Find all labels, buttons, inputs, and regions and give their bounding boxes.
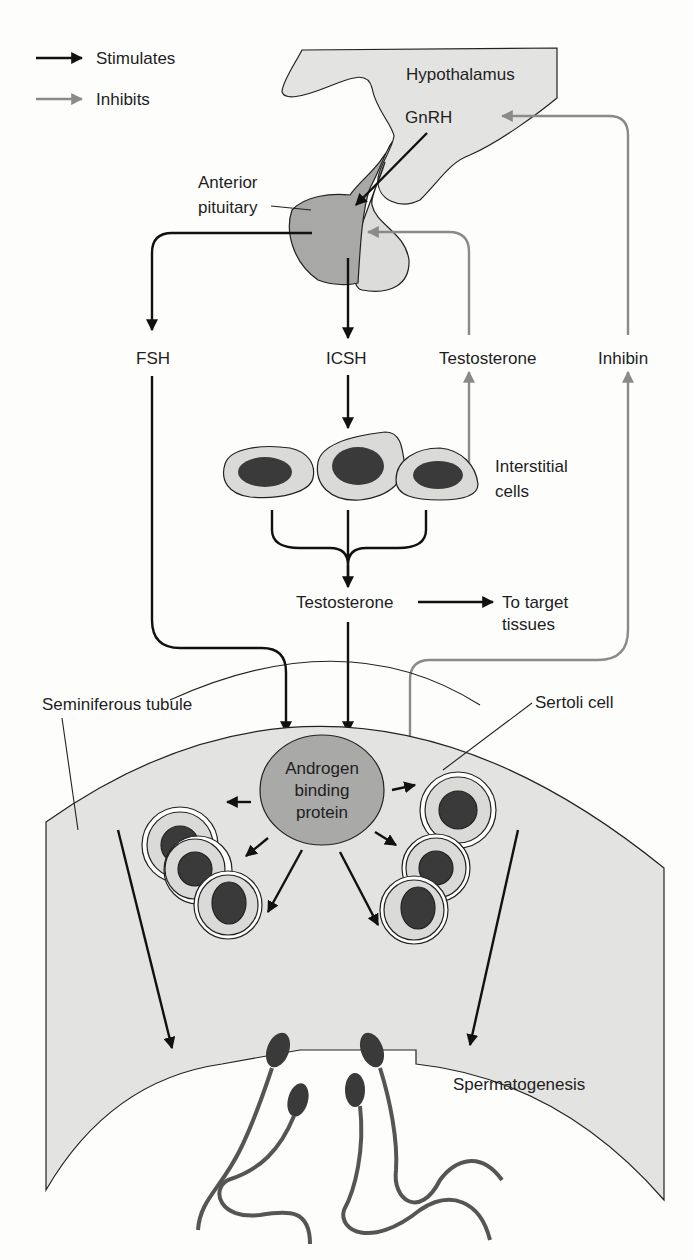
testosterone-feedback-label: Testosterone <box>439 349 536 368</box>
spermatogenesis-label: Spermatogenesis <box>453 1075 585 1094</box>
legend: Stimulates Inhibits <box>36 49 175 109</box>
anterior-pituitary-label-2: pituitary <box>198 198 258 217</box>
abp-label-3: protein <box>296 803 348 822</box>
hpg-axis-diagram: Stimulates Inhibits Hypothalamus GnRH An… <box>0 0 694 1260</box>
fsh-arrow <box>152 233 312 330</box>
fsh-label: FSH <box>136 349 170 368</box>
fsh-to-sertoli-arrow <box>152 376 286 732</box>
anterior-pituitary-label-1: Anterior <box>198 173 258 192</box>
inhibin-to-hypothalamus-arrow <box>502 116 628 335</box>
interstitial-cells-label-2: cells <box>495 482 529 501</box>
gnrh-label: GnRH <box>405 108 452 127</box>
interstitial-cells-label-1: Interstitial <box>495 457 568 476</box>
tubule-inner-membrane <box>170 661 480 705</box>
legend-inhibits: Inhibits <box>96 90 150 109</box>
interstitial-cells <box>224 432 478 500</box>
target-tissues-label-1: To target <box>502 593 568 612</box>
legend-stimulates: Stimulates <box>96 49 175 68</box>
icsh-label: ICSH <box>326 349 367 368</box>
testosterone-label: Testosterone <box>296 593 393 612</box>
seminiferous-tubule-label: Seminiferous tubule <box>42 695 192 714</box>
target-tissues-label-2: tissues <box>502 615 555 634</box>
hypothalamus-label: Hypothalamus <box>406 65 515 84</box>
abp-label-1: Androgen <box>285 759 359 778</box>
abp-label-2: binding <box>295 781 350 800</box>
inhibin-label: Inhibin <box>598 349 648 368</box>
sertoli-cell-label: Sertoli cell <box>535 693 613 712</box>
